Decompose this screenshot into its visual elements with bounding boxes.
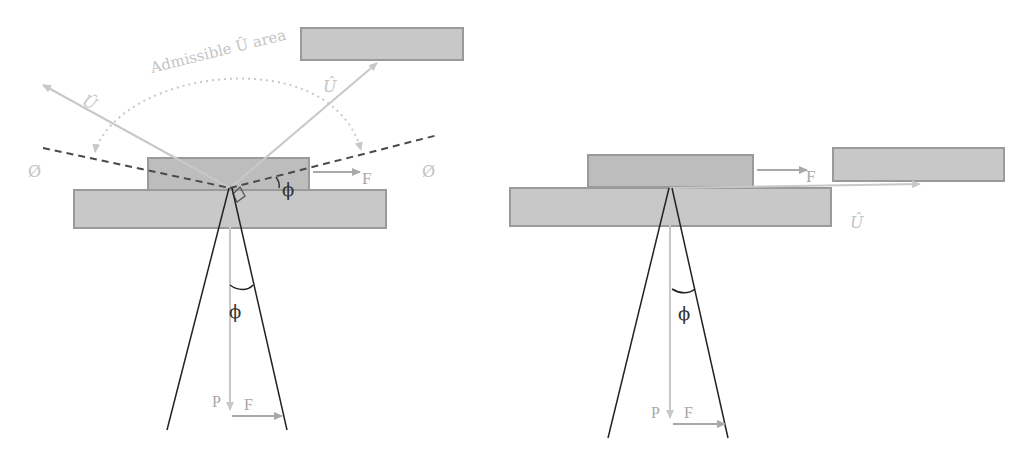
force-label-top: F (806, 167, 815, 186)
force-label-top: F (362, 169, 371, 188)
boundary-right-label: Ø (422, 162, 435, 181)
admissible-area-label: Admissible Û area (148, 26, 288, 77)
phi-arc-cone (672, 289, 695, 293)
left-panel: Admissible Û area Û Û Ø Ø F ϕ ϕ P F (28, 26, 463, 430)
obstacle-block (833, 148, 1004, 181)
normal-force-label: P (651, 404, 660, 421)
friction-cone-diagram: Admissible Û area Û Û Ø Ø F ϕ ϕ P F F Û (0, 0, 1030, 464)
boundary-left-label: Ø (28, 162, 41, 181)
u-hat-right-label: Û (323, 76, 337, 96)
phi-label-cone: ϕ (678, 303, 690, 324)
phi-arc-cone (230, 285, 253, 290)
u-hat-label: Û (850, 212, 864, 232)
obstacle-block (301, 28, 463, 60)
u-hat-left-label: Û (79, 90, 101, 114)
normal-force-label: P (212, 393, 221, 410)
phi-label-cone: ϕ (229, 301, 241, 322)
right-panel: F Û ϕ P F (510, 148, 1004, 438)
force-label-cone: F (684, 404, 693, 421)
admissible-arc (95, 79, 361, 152)
sliding-block (588, 155, 753, 187)
force-label-cone: F (244, 396, 253, 413)
phi-label-top: ϕ (282, 179, 294, 200)
u-hat-arrow-left (43, 85, 230, 188)
